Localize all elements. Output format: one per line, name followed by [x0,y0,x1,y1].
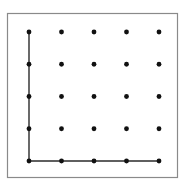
lattice-dot [59,62,64,67]
lattice-dot [157,30,162,35]
lattice-dot [124,126,129,131]
lattice-dot [92,94,97,99]
lattice-figure [0,0,192,187]
lattice-dot [124,94,129,99]
lattice-dot [27,94,32,99]
lattice-dot [124,30,129,35]
lattice-dot [59,30,64,35]
lattice-dot [27,62,32,67]
lattice-dot [157,159,162,164]
lattice-dot [27,159,32,164]
lattice-dot [92,62,97,67]
lattice-dot [59,94,64,99]
lattice-dot [59,126,64,131]
lattice-dot [92,159,97,164]
lattice-dot [59,159,64,164]
lattice-dot [157,94,162,99]
lattice-dot [92,126,97,131]
lattice-diagram [0,0,192,187]
lattice-dot [124,62,129,67]
lattice-dot [157,62,162,67]
lattice-dot [157,126,162,131]
lattice-dot [27,126,32,131]
lattice-dot [27,30,32,35]
lattice-dot [92,30,97,35]
lattice-dot [124,159,129,164]
